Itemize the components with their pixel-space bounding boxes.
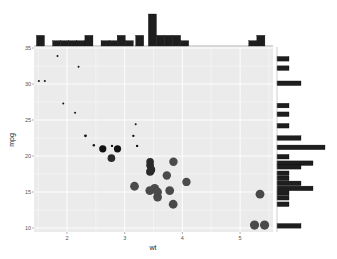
data-point: [145, 186, 154, 195]
data-point: [99, 145, 106, 152]
data-point: [38, 80, 40, 82]
data-point: [62, 102, 64, 104]
right-marginal-histogram: [277, 47, 325, 232]
x-tick-label: 2: [65, 235, 68, 241]
histogram-bar: [53, 41, 61, 46]
histogram-bar: [277, 171, 289, 176]
x-axis-title: wt: [149, 244, 157, 251]
histogram-bar: [109, 41, 117, 46]
histogram-bar: [277, 66, 289, 71]
histogram-bar: [277, 103, 289, 108]
chart-figure: 2345 101520253035 wt mpg: [0, 0, 337, 259]
x-axis: 2345: [65, 232, 241, 241]
histogram-bar: [277, 165, 301, 170]
data-point: [135, 123, 137, 125]
histogram-bar: [277, 81, 301, 86]
histogram-bar: [148, 14, 156, 46]
data-point: [136, 145, 138, 147]
data-point: [163, 171, 171, 179]
histogram-bar: [277, 136, 301, 141]
data-point: [260, 221, 269, 230]
histogram-bar: [173, 35, 181, 46]
histogram-bar: [277, 181, 301, 186]
histogram-bar: [165, 35, 173, 46]
data-point: [146, 168, 154, 176]
histogram-bar: [125, 41, 133, 46]
histogram-bar: [85, 35, 93, 46]
y-tick-label: 15: [25, 189, 31, 195]
y-axis-title: mpg: [8, 133, 16, 147]
histogram-bar: [277, 57, 289, 62]
data-point: [74, 112, 76, 114]
data-point: [130, 182, 139, 191]
histogram-bar: [277, 224, 301, 229]
y-tick-label: 25: [25, 117, 31, 123]
histogram-bar: [257, 35, 265, 46]
histogram-bar: [277, 190, 289, 195]
y-tick-label: 30: [25, 81, 31, 87]
data-point: [169, 200, 178, 209]
histogram-bar: [181, 41, 189, 46]
data-point: [44, 80, 46, 82]
histogram-bar: [101, 41, 109, 46]
y-tick-label: 35: [25, 45, 31, 51]
data-point: [146, 158, 154, 166]
data-point: [182, 178, 190, 186]
data-point: [111, 145, 113, 147]
y-tick-label: 10: [25, 225, 31, 231]
data-point: [132, 135, 134, 137]
data-point: [165, 186, 174, 195]
histogram-bar: [277, 123, 289, 128]
histogram-bar: [136, 35, 144, 46]
histogram-bar: [61, 41, 69, 46]
histogram-bar: [277, 186, 313, 191]
data-point: [256, 190, 265, 199]
data-point: [153, 188, 162, 197]
histogram-bar: [277, 202, 289, 207]
data-point: [169, 158, 177, 166]
data-point: [108, 154, 116, 162]
data-point: [114, 145, 121, 152]
histogram-bar: [277, 176, 289, 181]
histogram-bar: [249, 41, 257, 46]
histogram-bar: [69, 41, 77, 46]
histogram-bar: [77, 41, 85, 46]
x-tick-label: 4: [181, 235, 184, 241]
histogram-bar: [117, 35, 125, 46]
x-tick-label: 3: [123, 235, 126, 241]
data-point: [78, 66, 80, 68]
top-marginal-histogram: [34, 14, 273, 46]
data-point: [93, 144, 95, 146]
histogram-bar: [277, 112, 289, 117]
histogram-bar: [277, 145, 325, 150]
y-tick-label: 20: [25, 153, 31, 159]
histogram-bar: [36, 35, 44, 46]
data-point: [56, 55, 58, 57]
data-point: [84, 134, 87, 137]
data-point: [250, 221, 259, 230]
y-axis: 101520253035: [25, 45, 34, 231]
histogram-bar: [156, 35, 164, 46]
histogram-bar: [277, 195, 289, 200]
histogram-bar: [277, 154, 289, 159]
x-tick-label: 5: [239, 235, 242, 241]
